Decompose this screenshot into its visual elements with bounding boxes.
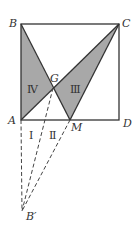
label-g: G (50, 72, 59, 85)
label-a: A (7, 114, 16, 127)
dashed-ab-prime (21, 120, 22, 211)
label-region-i: Ⅰ (29, 129, 33, 142)
region-iv-shaded (21, 24, 53, 120)
label-c: C (122, 17, 131, 30)
label-region-iii: Ⅲ (70, 83, 81, 96)
label-region-ii: Ⅱ (49, 129, 56, 142)
label-b: B (8, 17, 17, 30)
label-m: M (70, 121, 83, 134)
label-d: D (122, 117, 132, 130)
label-b-prime: B′ (25, 210, 37, 223)
geometry-diagram: B C A D G M B′ Ⅳ Ⅲ Ⅰ Ⅱ (0, 0, 138, 229)
label-region-iv: Ⅳ (27, 83, 39, 96)
